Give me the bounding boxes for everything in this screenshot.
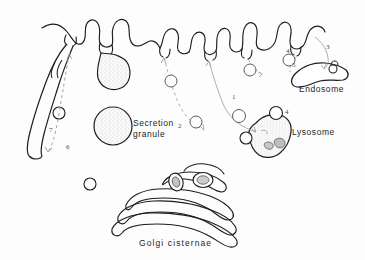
pathway-number-5: 5 xyxy=(292,61,296,69)
pathway-number-3: 3 xyxy=(326,43,330,51)
pathway-number-7: 7 xyxy=(49,126,53,134)
lysosome xyxy=(240,107,291,158)
pathway-number-1: 1 xyxy=(232,93,236,101)
secretion-granule-fusing xyxy=(97,53,130,90)
golgi-cisternae-label: Golgi cisternae xyxy=(139,238,212,249)
pathway-number-4b: 4 xyxy=(285,108,289,116)
cell-process xyxy=(27,45,73,159)
cell-trafficking-diagram: Endosome Lysosome Secretion granule Golg… xyxy=(0,0,365,260)
process-dashed-arrow xyxy=(45,54,72,152)
secretion-granule-label: Secretion granule xyxy=(133,118,174,139)
lysosome-label: Lysosome xyxy=(292,127,335,138)
pathway-number-6: 6 xyxy=(66,143,70,151)
pathway-number-4a: 4 xyxy=(286,47,290,55)
endosome-label: Endosome xyxy=(299,84,344,95)
plasma-membrane xyxy=(42,19,325,54)
golgi-vesicles xyxy=(84,171,213,192)
free-secretion-granule xyxy=(94,107,132,145)
pathway-number-2: 2 xyxy=(178,122,182,130)
